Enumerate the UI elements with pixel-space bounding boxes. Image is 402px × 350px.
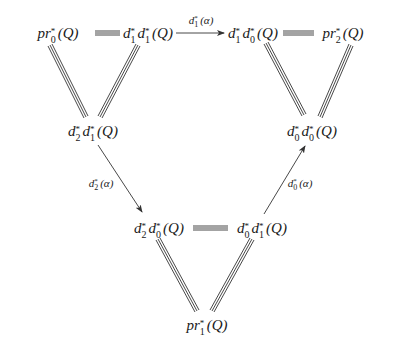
equality-d1d0-pr2 bbox=[283, 31, 314, 35]
equality-d2d0-d0d1 bbox=[193, 226, 228, 230]
node-d0-d0-pullback: d*0d*0(Q) bbox=[285, 123, 339, 140]
commutative-diagram: pr*0(Q) d*1d*1(Q) d*1d*0(Q) pr*2(Q) d*2d… bbox=[0, 0, 402, 350]
diagram-edges bbox=[0, 0, 402, 350]
node-pr0-pullback: pr*0(Q) bbox=[35, 25, 80, 42]
node-d0-d1-pullback: d*0d*1(Q) bbox=[235, 220, 289, 237]
equality-pr0-d1d1 bbox=[95, 31, 120, 35]
node-d1-d1-pullback: d*1d*1(Q) bbox=[121, 25, 175, 42]
node-d1-d0-pullback: d*1d*0(Q) bbox=[226, 25, 280, 42]
node-d2-d0-pullback: d*2d*0(Q) bbox=[132, 220, 186, 237]
arrow-label-left: d*2(α) bbox=[89, 177, 114, 189]
equality-pr0-d2d1 bbox=[48, 44, 88, 118]
arrow-label-top: d*1(α) bbox=[189, 14, 214, 26]
node-d2-d1-pullback: d*2d*1(Q) bbox=[66, 123, 120, 140]
equality-d1d1-d2d1 bbox=[98, 44, 140, 118]
equality-d0d1-pr1 bbox=[210, 238, 254, 312]
arrow-label-right: d*0(α) bbox=[288, 177, 313, 189]
equality-pr2-d0d0 bbox=[318, 44, 353, 118]
equality-d1d0-d0d0 bbox=[264, 42, 306, 116]
node-pr1-pullback: pr*1(Q) bbox=[184, 317, 229, 334]
node-pr2-pullback: pr*2(Q) bbox=[320, 25, 365, 42]
equality-d2d0-pr1 bbox=[156, 238, 199, 312]
